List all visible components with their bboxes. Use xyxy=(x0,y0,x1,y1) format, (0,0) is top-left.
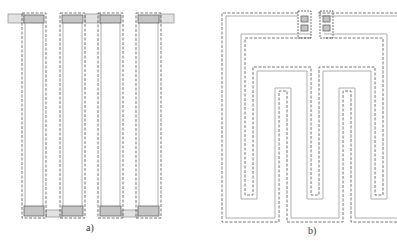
strip-1 xyxy=(22,13,46,218)
serpentine-inner xyxy=(226,16,397,218)
strip-2 xyxy=(60,13,85,218)
top-connector-right xyxy=(160,14,174,23)
diagram-canvas xyxy=(0,0,397,242)
top-connector-mid xyxy=(85,14,101,23)
panel-a-label: a) xyxy=(86,222,94,233)
panel-b xyxy=(222,11,397,222)
strip-4 xyxy=(136,13,161,218)
strip-3 xyxy=(98,13,123,218)
panel-a xyxy=(8,13,174,218)
panel-b-label: b) xyxy=(308,225,316,236)
